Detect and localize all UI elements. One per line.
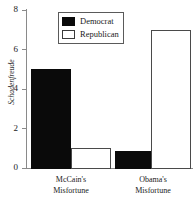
x-category-label-mccain-line2: Misfortune [31, 186, 111, 197]
y-tick-mark-6 [22, 49, 26, 50]
y-tick-mark-0 [22, 168, 26, 169]
x-category-label-obama: Obama's Misfortune [113, 175, 193, 196]
schadenfreude-bar-chart: 8 6 4 2 0 Schadenfreude McCain's Misfort… [0, 0, 196, 203]
x-category-label-obama-line1: Obama's [139, 175, 167, 184]
legend-item-republican: Republican [62, 28, 119, 41]
y-tick-mark-8 [22, 10, 26, 11]
x-category-label-obama-line2: Misfortune [113, 186, 193, 197]
y-tick-mark-4 [22, 89, 26, 90]
legend-label-republican: Republican [80, 30, 119, 39]
legend-item-democrat: Democrat [62, 15, 119, 28]
y-axis-title: Schadenfreude [8, 42, 16, 122]
y-tick-label-8: 8 [4, 5, 18, 14]
legend-swatch-republican-icon [62, 30, 75, 39]
y-tick-label-2: 2 [4, 124, 18, 133]
bar-obama-democrat [115, 151, 151, 169]
bar-obama-republican [151, 30, 191, 169]
y-axis-line [26, 9, 27, 169]
y-tick-mark-2 [22, 128, 26, 129]
legend-swatch-democrat-icon [62, 17, 75, 26]
x-category-label-mccain-line1: McCain's [56, 175, 86, 184]
y-tick-label-0: 0 [4, 163, 18, 172]
x-category-label-mccain: McCain's Misfortune [31, 175, 111, 196]
bar-mccain-republican [71, 148, 111, 169]
chart-legend: Democrat Republican [58, 12, 124, 44]
bar-mccain-democrat [31, 69, 71, 169]
legend-label-democrat: Democrat [80, 17, 114, 26]
